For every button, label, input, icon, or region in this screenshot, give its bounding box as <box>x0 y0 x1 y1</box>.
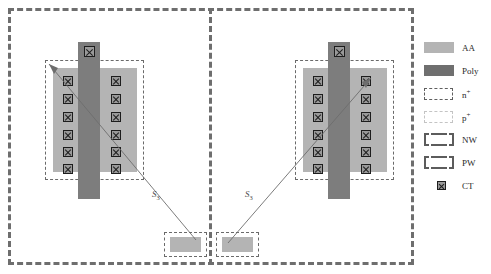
legend-swatch-pw <box>424 151 458 174</box>
left-source-pad-aa <box>170 237 201 252</box>
left-device-contact-l5 <box>63 147 73 157</box>
left-device-contact-l4 <box>63 130 73 140</box>
nw-bracket-middle <box>431 133 447 146</box>
left-device-contact-l2 <box>63 94 73 104</box>
legend-item-poly: Poly <box>424 59 490 82</box>
right-device-contact-r4 <box>361 130 371 140</box>
legend-item-aa: AA <box>424 36 490 59</box>
right-device-contact-r2 <box>361 94 371 104</box>
legend-item-nplus: n+ <box>424 82 490 105</box>
aa-swatch-icon <box>424 42 454 53</box>
legend-swatch-ct <box>424 174 458 197</box>
right-device-contact-l4 <box>313 130 323 140</box>
pplus-swatch-icon <box>424 111 453 123</box>
right-device-contact-l1 <box>313 76 323 86</box>
legend-label-poly: Poly <box>458 66 479 76</box>
poly-swatch-icon <box>424 65 454 76</box>
right-source-label-subscript: 3 <box>250 194 253 201</box>
left-device-contact-l6 <box>63 164 73 174</box>
right-device-contact-r3 <box>361 112 371 122</box>
layout-diagram-canvas: S3 S3 AA Poly n+ p+ <box>0 0 491 274</box>
ct-swatch-icon <box>437 181 446 190</box>
left-device-contact-r5 <box>111 147 121 157</box>
right-device-contact-r1 <box>361 76 371 86</box>
left-device-contact-r4 <box>111 130 121 140</box>
legend-swatch-aa <box>424 36 458 59</box>
right-source-label: S3 <box>245 189 253 201</box>
legend-label-pw: PW <box>458 158 476 168</box>
left-device-contact-r6 <box>111 164 121 174</box>
left-source-label: S3 <box>152 189 160 201</box>
left-device-contact-r2 <box>111 94 121 104</box>
legend: AA Poly n+ p+ <box>424 36 490 197</box>
left-device-contact-r3 <box>111 112 121 122</box>
legend-label-nplus-sup: + <box>467 88 471 96</box>
legend-label-pplus-sup: + <box>467 111 471 119</box>
pw-bracket-right <box>449 156 454 169</box>
left-source-label-subscript: 3 <box>157 194 160 201</box>
left-device-contact-l1 <box>63 76 73 86</box>
right-device-contact-l2 <box>313 94 323 104</box>
right-device-poly-gate <box>328 42 350 199</box>
left-device-poly-gate <box>78 42 100 199</box>
legend-label-nplus: n+ <box>458 88 470 100</box>
left-device-gate-contact <box>84 46 95 57</box>
right-device-gate-contact <box>334 46 345 57</box>
legend-item-pw: PW <box>424 151 490 174</box>
legend-swatch-pplus <box>424 105 458 128</box>
nplus-swatch-icon <box>424 88 453 100</box>
right-device-contact-l3 <box>313 112 323 122</box>
nw-swatch-icon <box>424 133 454 146</box>
legend-label-pplus: p+ <box>458 111 470 123</box>
pw-bracket-middle <box>431 156 447 169</box>
right-source-pad-aa <box>222 237 253 252</box>
nw-bracket-right <box>449 133 454 146</box>
pw-bracket-left <box>424 156 429 169</box>
legend-label-ct: CT <box>458 181 474 191</box>
left-device-contact-r1 <box>111 76 121 86</box>
well-boundary-divider <box>209 8 212 265</box>
legend-label-nw: NW <box>458 135 477 145</box>
right-device-contact-l6 <box>313 164 323 174</box>
legend-item-pplus: p+ <box>424 105 490 128</box>
right-device-contact-r6 <box>361 164 371 174</box>
right-device-contact-r5 <box>361 147 371 157</box>
right-device-contact-l5 <box>313 147 323 157</box>
legend-item-nw: NW <box>424 128 490 151</box>
legend-swatch-poly <box>424 59 458 82</box>
legend-swatch-nplus <box>424 82 458 105</box>
nw-bracket-left <box>424 133 429 146</box>
legend-label-aa: AA <box>458 43 475 53</box>
left-device-contact-l3 <box>63 112 73 122</box>
pw-swatch-icon <box>424 156 454 169</box>
legend-item-ct: CT <box>424 174 490 197</box>
legend-swatch-nw <box>424 128 458 151</box>
